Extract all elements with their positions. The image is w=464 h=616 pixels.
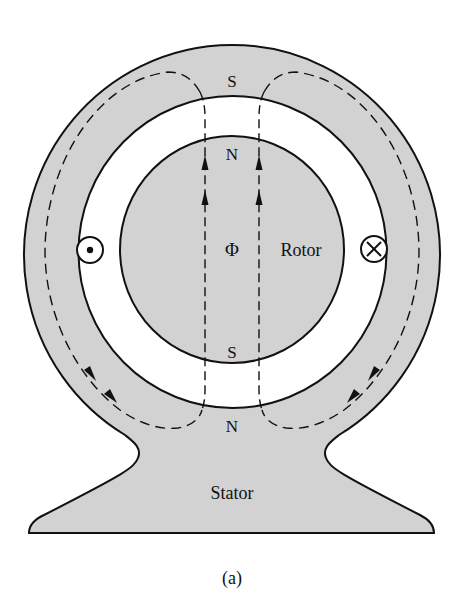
flux-symbol-label: Φ [225, 239, 239, 260]
stator-pole-bottom-label: N [226, 417, 238, 436]
stator-pole-top-label: S [227, 72, 236, 91]
figure-caption: (a) [222, 568, 242, 589]
stator-label: Stator [211, 483, 254, 503]
motor-magnetic-circuit-diagram: S N Φ Rotor S N Stator (a) [0, 0, 464, 616]
conductor-out-of-page [77, 237, 103, 263]
rotor-pole-bottom-label: S [227, 343, 236, 362]
conductor-into-page [361, 236, 387, 262]
rotor-label: Rotor [280, 240, 321, 260]
rotor-pole-top-label: N [226, 145, 238, 164]
